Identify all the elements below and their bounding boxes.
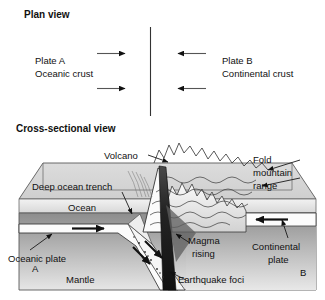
label-ocean: Ocean: [68, 202, 96, 213]
label-continental-plate-line1: Continental: [252, 241, 300, 252]
label-magma-line1: Magma: [188, 235, 220, 246]
plan-label-plate-b-crust: Continental crust: [222, 68, 294, 79]
cross-section-group: Cross-sectional view: [8, 123, 316, 290]
plan-view-title: Plan view: [24, 9, 70, 20]
cross-section-title: Cross-sectional view: [16, 123, 116, 134]
label-marker-a: A: [32, 263, 39, 274]
label-fold-mountain-line3: range: [253, 180, 277, 191]
label-volcano: Volcano: [104, 150, 138, 161]
label-magma-line2: rising: [192, 248, 215, 259]
label-continental-plate-line2: plate: [268, 254, 289, 265]
label-earthquake-foci: Earthquake foci: [178, 274, 244, 285]
plate-tectonics-figure: Plan view Plate A Oceanic crust Plate B …: [0, 0, 325, 300]
geology-diagram: Plan view Plate A Oceanic crust Plate B …: [0, 0, 325, 300]
plan-label-plate-a-name: Plate A: [35, 55, 66, 66]
label-marker-b: B: [300, 267, 306, 278]
plan-label-plate-b-name: Plate B: [222, 55, 253, 66]
label-fold-mountain-line2: mountain: [253, 167, 292, 178]
label-mantle: Mantle: [66, 274, 95, 285]
plan-view-group: Plan view Plate A Oceanic crust Plate B …: [24, 9, 294, 116]
plan-label-plate-a-crust: Oceanic crust: [35, 68, 93, 79]
label-deep-ocean-trench: Deep ocean trench: [32, 181, 112, 192]
label-fold-mountain-line1: Fold: [253, 154, 271, 165]
